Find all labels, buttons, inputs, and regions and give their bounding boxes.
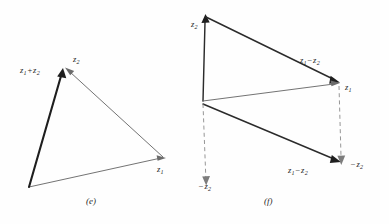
label-z2-panel-e: z2 bbox=[73, 55, 80, 64]
figure-container: z1+z2 z2 z1 (e) z2 z1−z2 z1 z1−z2 −z2 −z… bbox=[0, 0, 389, 224]
label-z1-minus-z2-text: z1−z2 bbox=[288, 165, 308, 175]
label-z1-panel-f: z1 bbox=[345, 83, 352, 92]
vector-z1-minus-z2-upper-panel-f bbox=[206, 17, 340, 84]
caption-panel-e: (e) bbox=[86, 196, 96, 206]
label-z1-panel-e: z1 bbox=[157, 165, 164, 174]
vector-diagram-canvas bbox=[0, 0, 389, 224]
label-z1-minus-z2-lower-panel-f: z1−z2 bbox=[288, 166, 308, 175]
label-minus-z2-text: −z2 bbox=[198, 181, 211, 191]
label-minus-z2-right-panel-f: −z2 bbox=[350, 160, 363, 169]
panel-e-graphics bbox=[29, 68, 166, 188]
label-z1-minus-z2-text: z1−z2 bbox=[300, 55, 320, 65]
label-z1-minus-z2-upper-panel-f: z1−z2 bbox=[300, 56, 320, 65]
label-z2-text: z2 bbox=[73, 54, 80, 64]
label-z1-plus-z2-text: z1+z2 bbox=[20, 65, 40, 75]
label-z1-text: z1 bbox=[345, 82, 352, 92]
panel-f-graphics bbox=[201, 14, 345, 186]
vector-minus-z2-right-panel-f bbox=[337, 86, 345, 165]
caption-panel-f: (f) bbox=[264, 196, 273, 206]
vector-z1-panel-f bbox=[203, 81, 340, 101]
label-z1-text: z1 bbox=[157, 164, 164, 174]
label-z2-panel-f: z2 bbox=[191, 20, 198, 29]
vector-z2-panel-f bbox=[201, 14, 209, 101]
label-z2-text: z2 bbox=[191, 19, 198, 29]
vector-z2-panel-e bbox=[65, 68, 163, 158]
vector-z1-plus-z2-panel-e bbox=[29, 68, 66, 187]
label-z1-plus-z2-panel-e: z1+z2 bbox=[20, 66, 40, 75]
vector-minus-z2-bottom-panel-f bbox=[202, 104, 210, 186]
vector-z1-panel-e bbox=[29, 155, 166, 187]
vector-z1-minus-z2-lower-panel-f bbox=[203, 104, 341, 163]
label-minus-z2-text: −z2 bbox=[350, 159, 363, 169]
label-minus-z2-bottom-panel-f: −z2 bbox=[198, 182, 211, 191]
